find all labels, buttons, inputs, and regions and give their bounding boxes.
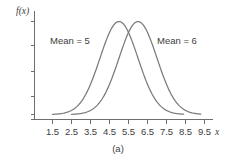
x-tick-label-7: 8.5 <box>179 126 192 137</box>
x-tick-label-1: 2.5 <box>65 126 78 137</box>
distribution-chart: f(x) x 1.5 2.5 3.5 4.5 5.5 6.5 7.5 8.5 9… <box>0 0 236 161</box>
figure-container: f(x) x 1.5 2.5 3.5 4.5 5.5 6.5 7.5 8.5 9… <box>0 0 236 161</box>
x-tick-label-4: 5.5 <box>122 126 135 137</box>
x-tick-label-0: 1.5 <box>46 126 59 137</box>
x-tick-label-8: 9.5 <box>198 126 211 137</box>
x-axis-title: x <box>214 127 220 137</box>
x-tick-label-6: 7.5 <box>160 126 173 137</box>
figure-caption: (a) <box>112 143 124 154</box>
right-curve-label: Mean = 6 <box>157 35 197 46</box>
y-axis-title: f(x) <box>16 6 29 17</box>
left-curve-label: Mean = 5 <box>50 35 90 46</box>
x-tick-label-3: 4.5 <box>103 126 116 137</box>
x-tick-label-5: 6.5 <box>141 126 154 137</box>
x-tick-label-2: 3.5 <box>84 126 97 137</box>
